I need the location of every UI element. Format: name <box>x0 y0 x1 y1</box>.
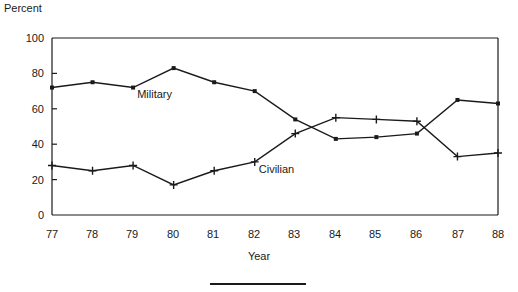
x-tick-label: 78 <box>86 228 98 240</box>
y-tick-label: 100 <box>26 32 44 44</box>
x-tick-label: 82 <box>248 228 260 240</box>
x-tick-label: 81 <box>207 228 219 240</box>
x-tick-label: 83 <box>288 228 300 240</box>
data-point-marker <box>332 114 340 122</box>
data-point-marker <box>50 86 54 90</box>
x-tick-label: 85 <box>369 228 381 240</box>
series-civilian <box>48 114 502 189</box>
chart-figure: Percent 100 80 60 40 20 0 77 78 <box>0 0 518 292</box>
data-point-marker <box>455 98 459 102</box>
data-point-marker <box>372 115 380 123</box>
series-annotation: Civilian <box>259 163 294 175</box>
x-tick-label: 80 <box>167 228 179 240</box>
axis-frame <box>52 38 498 215</box>
series-annotation: Military <box>137 88 172 100</box>
series-line <box>52 68 498 139</box>
data-point-marker <box>415 132 419 136</box>
data-point-marker <box>129 161 137 169</box>
data-point-marker <box>496 101 500 105</box>
bottom-divider-rule <box>210 283 306 285</box>
data-point-marker <box>253 89 257 93</box>
data-point-marker <box>494 149 502 157</box>
series-annotation-layer: MilitaryCivilian <box>137 88 294 174</box>
data-point-marker <box>212 80 216 84</box>
y-tick-label: 80 <box>32 67 44 79</box>
series-line <box>52 118 498 185</box>
y-tick-label: 60 <box>32 103 44 115</box>
x-tick-label: 84 <box>329 228 341 240</box>
data-point-marker <box>131 86 135 90</box>
x-axis-title: Year <box>0 250 518 262</box>
data-point-marker <box>89 167 97 175</box>
data-point-marker <box>48 161 56 169</box>
y-axis-tick-labels: 100 80 60 40 20 0 <box>26 32 44 221</box>
y-tick-label: 40 <box>32 138 44 150</box>
data-point-marker <box>293 117 297 121</box>
x-tick-label: 88 <box>492 228 504 240</box>
x-axis-tick-labels: 77 78 79 80 81 82 83 84 85 86 87 88 <box>46 228 504 240</box>
series-military <box>50 66 500 141</box>
data-point-marker <box>170 181 178 189</box>
data-point-marker <box>91 80 95 84</box>
x-tick-label: 86 <box>410 228 422 240</box>
data-point-marker <box>172 66 176 70</box>
line-chart-plot: 100 80 60 40 20 0 77 78 79 80 81 82 83 8… <box>0 0 518 292</box>
data-point-marker <box>334 137 338 141</box>
x-tick-label: 87 <box>452 228 464 240</box>
data-point-marker <box>210 167 218 175</box>
y-tick-label: 20 <box>32 174 44 186</box>
x-tick-label: 77 <box>46 228 58 240</box>
data-point-marker <box>374 135 378 139</box>
y-tick-label: 0 <box>38 209 44 221</box>
x-tick-label: 79 <box>126 228 138 240</box>
